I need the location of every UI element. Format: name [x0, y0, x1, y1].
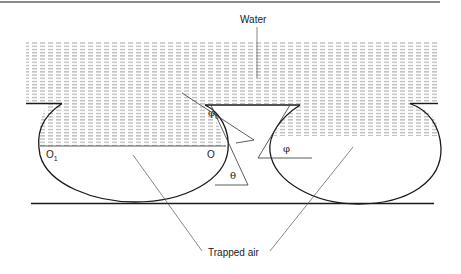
diagram-canvas	[0, 0, 461, 274]
phi-label: φ	[283, 143, 290, 154]
phi0-label: φ0	[208, 107, 219, 120]
trapped-air-label: Trapped air	[208, 247, 259, 258]
o1-label: O1	[46, 149, 58, 162]
o-label: O	[207, 149, 215, 160]
theta-label: θ	[230, 170, 236, 181]
water-label: Water	[240, 14, 266, 25]
water-region	[26, 42, 440, 150]
